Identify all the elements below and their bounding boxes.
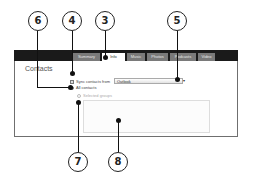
callout-line-8: [118, 120, 119, 152]
all-contacts-row[interactable]: All contacts: [70, 85, 96, 90]
callout-dot-6: [68, 85, 73, 90]
callout-line-4: [72, 31, 73, 73]
selected-groups-radio[interactable]: [77, 94, 81, 98]
callout-line-5: [177, 31, 178, 79]
tab-photos[interactable]: Photos: [147, 53, 168, 61]
callout-3: 3: [95, 11, 115, 31]
sync-source-dropdown[interactable]: Outlook: [114, 78, 183, 84]
tab-music[interactable]: Music: [127, 53, 145, 61]
callout-dot-3: [103, 55, 108, 60]
sync-contacts-row[interactable]: Sync contacts from: [70, 79, 110, 84]
callout-8: 8: [108, 152, 128, 172]
selected-groups-label: Selected groups: [83, 93, 112, 98]
callout-5: 5: [167, 11, 187, 31]
callout-line-6: [37, 31, 38, 88]
callout-line-3: [105, 31, 106, 57]
tab-podcasts[interactable]: Podcasts: [170, 53, 196, 61]
callout-6: 6: [28, 11, 48, 31]
sync-contacts-label: Sync contacts from: [76, 79, 110, 84]
callout-dot-4: [70, 71, 75, 76]
sync-contacts-checkbox[interactable]: [70, 80, 74, 84]
callout-dot-7: [76, 100, 81, 105]
section-title: Contacts: [25, 65, 53, 72]
chevron-down-icon[interactable]: ▾: [183, 78, 185, 83]
callout-dot-8: [116, 118, 121, 123]
all-contacts-label: All contacts: [76, 85, 96, 90]
callout-4: 4: [62, 11, 82, 31]
tab-summary[interactable]: Summary: [73, 53, 100, 61]
callout-7: 7: [68, 152, 88, 172]
tab-video[interactable]: Video: [198, 53, 215, 61]
callout-line-7: [78, 102, 79, 152]
callout-dot-5: [175, 77, 180, 82]
groups-listbox[interactable]: [83, 100, 210, 133]
callout-line-6h: [37, 87, 70, 88]
selected-groups-row[interactable]: Selected groups: [77, 93, 112, 98]
